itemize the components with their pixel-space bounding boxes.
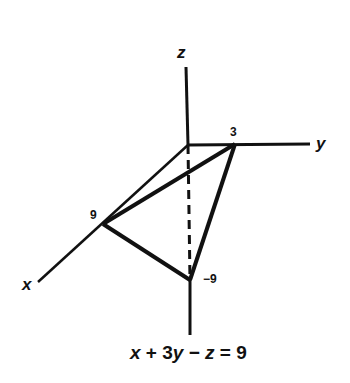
edge-y-to-z [190, 144, 235, 280]
x-axis-label: x [22, 276, 31, 293]
z-axis-label: z [177, 44, 186, 61]
x-intercept-label: 9 [90, 209, 97, 221]
z-intercept-label: −9 [203, 273, 217, 285]
equation-plus-3: + 3 [141, 342, 173, 363]
edge-z-to-x [103, 224, 190, 280]
equation-y: y [173, 342, 184, 363]
equation-z: z [205, 342, 215, 363]
z-axis-hidden-dashed [188, 145, 190, 280]
y-axis [188, 144, 310, 145]
equation-minus: − [183, 342, 205, 363]
y-intercept-label: 3 [230, 126, 237, 138]
edge-x-to-y [103, 144, 235, 224]
plane-diagram [0, 0, 350, 383]
equation-equals-9: = 9 [215, 342, 247, 363]
equation-x: x [130, 342, 141, 363]
z-axis [186, 67, 188, 145]
y-axis-label: y [316, 135, 325, 152]
x-axis [38, 145, 188, 282]
plane-equation: x + 3y − z = 9 [130, 343, 247, 362]
